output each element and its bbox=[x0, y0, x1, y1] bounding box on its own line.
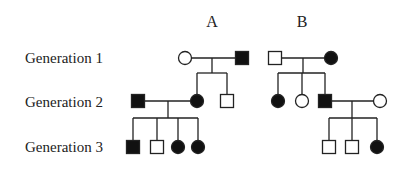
affected-female-icon bbox=[325, 52, 338, 65]
unaffected-male-icon bbox=[346, 141, 359, 154]
affected-female-icon bbox=[371, 141, 384, 154]
affected-male-icon bbox=[319, 95, 332, 108]
unaffected-male-icon bbox=[269, 52, 282, 65]
affected-female-icon bbox=[172, 141, 185, 154]
affected-female-icon bbox=[272, 95, 285, 108]
pedigree-chart bbox=[0, 0, 411, 169]
unaffected-male-icon bbox=[151, 141, 164, 154]
affected-female-icon bbox=[191, 95, 204, 108]
unaffected-male-icon bbox=[323, 141, 336, 154]
affected-male-icon bbox=[127, 141, 140, 154]
unaffected-female-icon bbox=[296, 95, 309, 108]
affected-female-icon bbox=[192, 141, 205, 154]
pedigree-diagram: Generation 1 Generation 2 Generation 3 A… bbox=[0, 0, 411, 169]
unaffected-male-icon bbox=[221, 95, 234, 108]
affected-male-icon bbox=[132, 95, 145, 108]
unaffected-female-icon bbox=[374, 95, 387, 108]
affected-male-icon bbox=[236, 52, 249, 65]
unaffected-female-icon bbox=[179, 52, 192, 65]
